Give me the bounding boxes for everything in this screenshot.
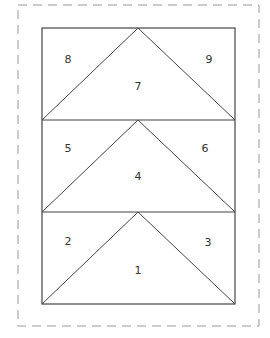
goose-triangle-top (42, 28, 235, 120)
seam-allowance-border (18, 5, 259, 326)
goose-triangle-bottom (42, 212, 235, 304)
piece-label-8: 8 (65, 53, 72, 66)
goose-triangle-middle (42, 120, 235, 212)
piece-label-7: 7 (135, 80, 142, 93)
piece-label-6: 6 (202, 142, 209, 155)
block-outline (42, 28, 235, 304)
flying-geese-pattern-diagram: 8 9 7 5 6 4 2 3 1 (0, 0, 270, 338)
piece-label-5: 5 (65, 142, 72, 155)
piece-label-2: 2 (65, 235, 72, 248)
piece-label-4: 4 (135, 170, 142, 183)
piece-label-9: 9 (206, 53, 213, 66)
piece-label-1: 1 (135, 264, 142, 277)
piece-label-3: 3 (205, 236, 212, 249)
